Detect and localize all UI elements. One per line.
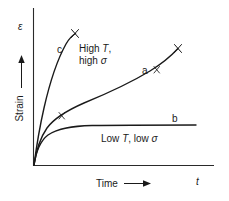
curve-label-a: a	[142, 65, 148, 76]
anno-low-middle: , low	[128, 133, 151, 144]
x-marker-icon	[72, 30, 79, 38]
x-axis-title: Time	[96, 178, 118, 189]
anno-low-symbol-sigma: σ	[152, 133, 158, 144]
curve-label-b: b	[172, 113, 178, 124]
x-marker-icon	[154, 67, 160, 74]
plot-canvas	[0, 0, 229, 201]
annotation-low-temperature-stress: Low T, low σ	[101, 133, 158, 144]
anno-high-line1-prefix: High	[79, 43, 102, 54]
anno-high-line2-prefix: high	[79, 55, 101, 66]
right-arrow-icon	[124, 180, 151, 186]
y-axis-symbol: ε	[18, 21, 22, 32]
curve-label-c: c	[57, 44, 62, 55]
anno-high-line1-suffix: ,	[108, 43, 111, 54]
y-axis-title: Strain	[14, 80, 25, 138]
creep-curve-figure: ε t Strain Time a b c High T,high σ Low …	[0, 0, 229, 201]
x-axis-symbol: t	[196, 176, 199, 187]
annotation-high-temperature-stress: High T,high σ	[79, 43, 111, 67]
x-marker-icon	[175, 45, 182, 53]
anno-high-line2-symbol: σ	[101, 55, 107, 66]
anno-low-prefix: Low	[101, 133, 122, 144]
curve-b-path	[34, 125, 196, 165]
